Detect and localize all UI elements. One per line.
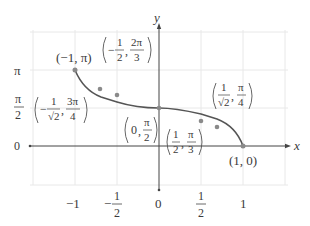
x-tick-neghalf-den: 2 [114, 206, 120, 220]
x-tick-1: 1 [240, 196, 247, 211]
svg-text:2: 2 [117, 51, 123, 63]
arccos-graph: x y π π 2 0 −1 − 1 2 0 1 2 1 (−1, π) (1,… [0, 0, 310, 226]
x-tick-neghalf-sign: − [104, 196, 111, 211]
label-inv-sqrt2: 1 √2 , π 4 [213, 81, 252, 109]
x-tick-half-num: 1 [198, 189, 204, 203]
svg-text:π: π [144, 116, 150, 128]
svg-text:,: , [181, 136, 184, 150]
y-tick-labels: π π 2 0 [14, 63, 24, 153]
label-neg-inv-sqrt2: − 1 √2 , 3π 4 [35, 95, 87, 123]
svg-text:3: 3 [188, 143, 194, 155]
svg-text:π: π [238, 81, 244, 93]
svg-text:3π: 3π [67, 95, 79, 107]
svg-text:4: 4 [238, 96, 244, 108]
svg-text:π: π [188, 128, 194, 140]
svg-text:,: , [125, 44, 128, 58]
label-neg1-pi: (−1, π) [56, 50, 92, 65]
label-1-0: (1, 0) [229, 153, 257, 168]
svg-text:1: 1 [51, 95, 57, 107]
svg-text:−: − [108, 43, 115, 57]
svg-text:√2: √2 [48, 110, 60, 122]
point-neg1-pi-dot [73, 68, 78, 73]
y-tick-pi: π [14, 63, 21, 78]
svg-text:4: 4 [70, 110, 76, 122]
y-tick-pi2-num: π [15, 92, 21, 106]
x-axis [29, 144, 291, 148]
x-tick-0: 0 [155, 196, 162, 211]
label-neg-half: − 1 2 , 2π 3 [103, 36, 151, 63]
x-axis-label: x [293, 138, 300, 153]
svg-text:,: , [138, 124, 141, 138]
svg-text:1: 1 [117, 36, 123, 48]
label-zero: 0 , π 2 [125, 116, 157, 143]
svg-text:2π: 2π [131, 36, 143, 48]
svg-text:√2: √2 [218, 96, 230, 108]
y-axis-label: y [152, 10, 160, 25]
svg-text:−: − [40, 102, 47, 116]
svg-text:,: , [231, 89, 234, 103]
point-zero-dot [157, 106, 162, 111]
point-neg-half-dot [115, 93, 120, 98]
point-half-dot [199, 119, 204, 124]
x-tick-labels: −1 − 1 2 0 1 2 1 [66, 189, 247, 220]
x-tick-neg1: −1 [66, 196, 80, 211]
y-tick-0: 0 [14, 139, 20, 153]
x-tick-half-den: 2 [198, 206, 204, 220]
point-neg-inv-sqrt2-dot [98, 87, 103, 92]
svg-text:2: 2 [144, 131, 150, 143]
y-tick-pi2-den: 2 [15, 108, 21, 122]
point-1-0-dot [241, 144, 246, 149]
svg-text:0: 0 [131, 123, 137, 137]
x-tick-neghalf-num: 1 [114, 189, 120, 203]
svg-text:,: , [61, 103, 64, 117]
svg-text:2: 2 [173, 143, 179, 155]
label-half: 1 2 , π 3 [167, 128, 202, 155]
svg-text:1: 1 [221, 81, 227, 93]
point-inv-sqrt2-dot [215, 125, 220, 130]
svg-text:3: 3 [134, 51, 140, 63]
svg-text:1: 1 [173, 128, 179, 140]
